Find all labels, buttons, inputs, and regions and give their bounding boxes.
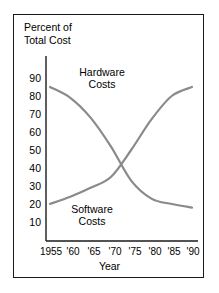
- chart-figure: Percent ofTotal Cost 90 80 70 60 50 40 3…: [0, 0, 219, 293]
- series-line-hardware: [50, 87, 192, 208]
- series-line-software: [50, 87, 192, 204]
- chart-plot-area: [0, 0, 219, 293]
